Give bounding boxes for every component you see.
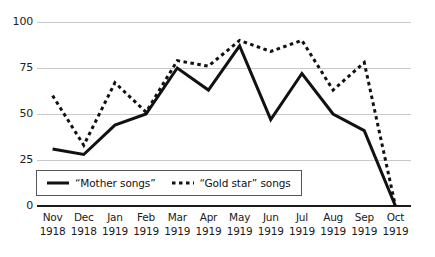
x-tick-year: 1919 bbox=[193, 224, 224, 238]
x-tick-month: Jan bbox=[99, 210, 130, 224]
y-tick-label-0: 0 bbox=[3, 200, 33, 211]
x-tick-mar-1919: Mar1919 bbox=[162, 210, 193, 254]
x-tick-month: May bbox=[224, 210, 255, 224]
x-tick-may-1919: May1919 bbox=[224, 210, 255, 254]
solid-line-swatch-icon bbox=[47, 178, 69, 188]
x-tick-year: 1919 bbox=[162, 224, 193, 238]
x-tick-month: Apr bbox=[193, 210, 224, 224]
chart-legend: “Mother songs” “Gold star” songs bbox=[36, 170, 302, 196]
x-tick-nov-1918: Nov1918 bbox=[37, 210, 68, 254]
x-tick-year: 1919 bbox=[131, 224, 162, 238]
x-tick-month: Jun bbox=[255, 210, 286, 224]
x-tick-year: 1919 bbox=[255, 224, 286, 238]
x-tick-month: Mar bbox=[162, 210, 193, 224]
x-tick-year: 1919 bbox=[286, 224, 317, 238]
x-tick-sep-1919: Sep1919 bbox=[349, 210, 380, 254]
x-tick-year: 1919 bbox=[99, 224, 130, 238]
x-tick-month: Sep bbox=[349, 210, 380, 224]
y-tick-label-100: 100 bbox=[3, 16, 33, 27]
y-tick-label-50: 50 bbox=[3, 108, 33, 119]
x-tick-month: Nov bbox=[37, 210, 68, 224]
x-tick-year: 1918 bbox=[37, 224, 68, 238]
x-tick-month: Jul bbox=[286, 210, 317, 224]
x-tick-dec-1918: Dec1918 bbox=[68, 210, 99, 254]
x-tick-year: 1919 bbox=[224, 224, 255, 238]
x-tick-jul-1919: Jul1919 bbox=[286, 210, 317, 254]
x-tick-year: 1919 bbox=[349, 224, 380, 238]
x-tick-apr-1919: Apr1919 bbox=[193, 210, 224, 254]
x-tick-year: 1919 bbox=[318, 224, 349, 238]
x-tick-jun-1919: Jun1919 bbox=[255, 210, 286, 254]
y-axis: 100 75 50 25 0 bbox=[0, 0, 33, 257]
x-tick-month: Feb bbox=[131, 210, 162, 224]
y-tick-label-75: 75 bbox=[3, 62, 33, 73]
x-tick-month: Dec bbox=[68, 210, 99, 224]
x-tick-jan-1919: Jan1919 bbox=[99, 210, 130, 254]
legend-label-gold-star-songs: “Gold star” songs bbox=[200, 178, 291, 189]
x-tick-oct-1919: Oct1919 bbox=[380, 210, 411, 254]
legend-entry-mother-songs: “Mother songs” bbox=[47, 178, 156, 189]
x-axis: Nov1918Dec1918Jan1919Feb1919Mar1919Apr19… bbox=[37, 210, 411, 254]
legend-entry-gold-star-songs: “Gold star” songs bbox=[172, 178, 291, 189]
dotted-line-swatch-icon bbox=[172, 178, 194, 188]
x-tick-feb-1919: Feb1919 bbox=[131, 210, 162, 254]
line-chart: 100 75 50 25 0 “Mother songs” “Gold star… bbox=[0, 0, 435, 257]
legend-label-mother-songs: “Mother songs” bbox=[75, 178, 156, 189]
x-tick-month: Oct bbox=[380, 210, 411, 224]
x-tick-year: 1918 bbox=[68, 224, 99, 238]
y-tick-label-25: 25 bbox=[3, 154, 33, 165]
x-tick-aug-1919: Aug1919 bbox=[318, 210, 349, 254]
x-tick-year: 1919 bbox=[380, 224, 411, 238]
x-tick-month: Aug bbox=[318, 210, 349, 224]
